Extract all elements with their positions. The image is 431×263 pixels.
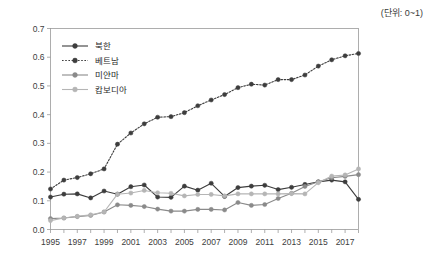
data-point xyxy=(276,192,280,196)
data-point xyxy=(196,207,200,211)
data-point xyxy=(343,173,347,177)
data-point xyxy=(356,173,360,177)
data-point xyxy=(276,187,280,191)
data-point xyxy=(48,187,52,191)
data-point xyxy=(316,64,320,68)
data-point xyxy=(156,195,160,199)
data-point xyxy=(249,203,253,207)
data-point xyxy=(343,54,347,58)
data-point xyxy=(236,192,240,196)
data-point xyxy=(156,191,160,195)
data-point xyxy=(169,195,173,199)
data-point xyxy=(129,203,133,207)
legend-marker-icon xyxy=(73,44,78,49)
legend-item-2[interactable]: 베트남 xyxy=(62,56,119,66)
data-point xyxy=(182,184,186,188)
y-tick-label: 0.7 xyxy=(33,24,45,34)
data-point xyxy=(48,195,52,199)
data-point xyxy=(249,82,253,86)
y-tick-label: 0.4 xyxy=(33,110,45,120)
data-point xyxy=(209,207,213,211)
data-point xyxy=(156,207,160,211)
x-tick-label: 2003 xyxy=(148,237,167,247)
data-point xyxy=(263,183,267,187)
data-point xyxy=(102,189,106,193)
data-point xyxy=(289,78,293,82)
data-point xyxy=(169,209,173,213)
legend-label: 미얀마 xyxy=(95,70,119,80)
data-point xyxy=(356,197,360,201)
data-point xyxy=(62,216,66,220)
data-point xyxy=(209,192,213,196)
data-point xyxy=(115,142,119,146)
data-point xyxy=(129,191,133,195)
x-tick-label: 2009 xyxy=(229,237,248,247)
series-line xyxy=(51,175,359,219)
data-point xyxy=(129,185,133,189)
x-tick-label: 2001 xyxy=(121,237,140,247)
data-point xyxy=(48,219,52,223)
data-point xyxy=(89,196,93,200)
x-tick-label: 2011 xyxy=(256,237,275,247)
legend-label: 캄보디아 xyxy=(95,85,127,95)
legend-item-4[interactable]: 캄보디아 xyxy=(62,85,127,95)
y-tick-label: 0.5 xyxy=(33,81,45,91)
legend-item-1[interactable]: 북한 xyxy=(62,41,111,51)
series-line xyxy=(51,180,359,199)
x-tick-label: 1995 xyxy=(41,237,60,247)
data-point xyxy=(276,196,280,200)
data-point xyxy=(343,180,347,184)
data-point xyxy=(330,174,334,178)
data-point xyxy=(142,183,146,187)
data-point xyxy=(102,210,106,214)
data-point xyxy=(142,204,146,208)
x-tick-label: 2017 xyxy=(336,237,355,247)
y-tick-label: 0.6 xyxy=(33,52,45,62)
data-point xyxy=(169,115,173,119)
data-point xyxy=(222,194,226,198)
data-point xyxy=(249,184,253,188)
data-point xyxy=(62,192,66,196)
data-point xyxy=(263,83,267,87)
legend-item-3[interactable]: 미얀마 xyxy=(62,70,119,80)
y-tick-label: 0.3 xyxy=(33,138,45,148)
x-tick-label: 2013 xyxy=(282,237,301,247)
chart-legend: 북한베트남미얀마캄보디아 xyxy=(62,41,127,94)
chart-container: (단위: 0~1) 0.00.10.20.30.40.50.60.7 19951… xyxy=(0,0,431,263)
y-tick-label: 0.0 xyxy=(33,225,45,235)
data-point xyxy=(330,58,334,62)
data-point xyxy=(236,86,240,90)
data-point xyxy=(303,73,307,77)
legend-label: 베트남 xyxy=(95,56,119,66)
data-point xyxy=(169,191,173,195)
data-point xyxy=(89,172,93,176)
data-point xyxy=(129,131,133,135)
legend-marker-icon xyxy=(73,58,78,63)
data-point xyxy=(263,202,267,206)
unit-note: (단위: 0~1) xyxy=(381,6,423,19)
data-point xyxy=(249,192,253,196)
data-point xyxy=(303,192,307,196)
data-point xyxy=(75,214,79,218)
data-point xyxy=(289,185,293,189)
data-point xyxy=(142,188,146,192)
data-point xyxy=(142,122,146,126)
series-1 xyxy=(48,178,360,201)
data-point xyxy=(263,192,267,196)
data-point xyxy=(182,194,186,198)
data-point xyxy=(209,98,213,102)
data-point xyxy=(89,213,93,217)
data-point xyxy=(115,203,119,207)
data-point xyxy=(75,192,79,196)
data-point xyxy=(182,111,186,115)
data-point xyxy=(196,192,200,196)
data-point xyxy=(196,104,200,108)
legend-marker-icon xyxy=(73,87,78,92)
data-point xyxy=(222,208,226,212)
x-axis-ticks: 1995199719992001200320052007200920112013… xyxy=(41,230,358,247)
data-point xyxy=(289,192,293,196)
y-axis-ticks: 0.00.10.20.30.40.50.60.7 xyxy=(33,24,51,235)
data-point xyxy=(356,167,360,171)
x-tick-label: 2005 xyxy=(175,237,194,247)
y-tick-label: 0.1 xyxy=(33,196,45,206)
